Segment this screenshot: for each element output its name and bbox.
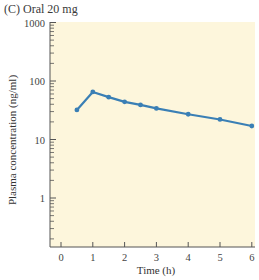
data-point — [138, 103, 143, 108]
y-tick-label: 10 — [35, 135, 46, 146]
x-tick-label: 2 — [122, 252, 127, 263]
y-tick-label: 1 — [40, 193, 45, 204]
data-point — [218, 117, 223, 122]
data-point — [75, 108, 80, 113]
x-tick-label: 6 — [249, 252, 254, 263]
data-point — [154, 106, 159, 111]
x-axis-title: Time (h) — [137, 264, 176, 277]
plot-area — [50, 22, 255, 247]
y-tick-label: 100 — [29, 76, 45, 87]
x-tick-label: 5 — [217, 252, 222, 263]
x-tick-label: 0 — [58, 252, 63, 263]
data-point — [106, 95, 111, 100]
x-tick-label: 4 — [186, 252, 192, 263]
data-point — [90, 90, 95, 95]
chart: 1000100101 0123456 Plasma concentration … — [0, 0, 259, 280]
data-point — [122, 99, 127, 104]
y-tick-label: 1000 — [24, 18, 45, 29]
data-point — [186, 112, 191, 117]
x-tick-label: 1 — [90, 252, 95, 263]
y-axis-title: Plasma concentration (ng/ml) — [6, 75, 19, 205]
data-point — [249, 124, 254, 129]
x-tick-label: 3 — [154, 252, 159, 263]
